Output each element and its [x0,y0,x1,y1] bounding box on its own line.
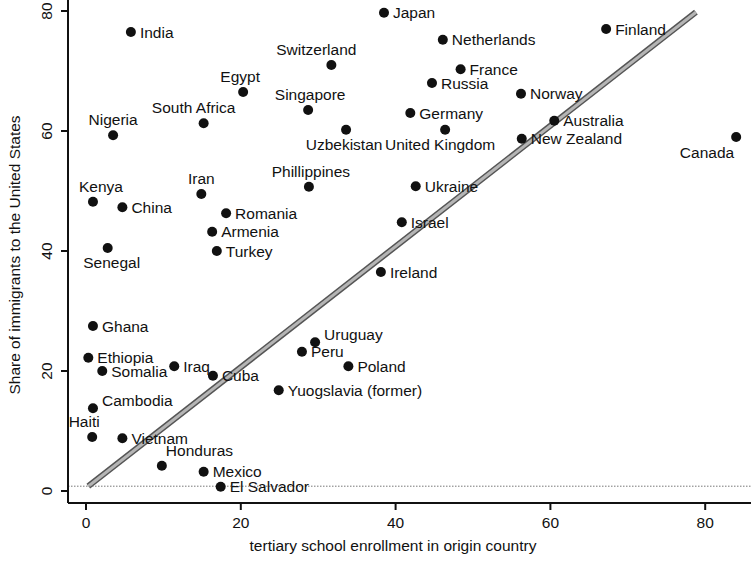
y-tick-label: 20 [38,362,55,380]
point-marker [517,134,527,144]
point-label: Australia [563,112,624,129]
point-label: Phillippines [272,163,351,180]
point-label: Uruguay [324,326,383,343]
scatter-chart: 020406080 020406080 tertiary school enro… [0,0,751,567]
point-marker [199,467,209,477]
data-point: Singapore [275,86,346,115]
data-point: Poland [343,358,405,375]
data-point: Armenia [207,223,279,240]
point-label: Iran [188,170,215,187]
data-point: Cuba [208,367,259,384]
data-point: Peru [297,343,344,360]
data-point: Egypt [220,68,260,97]
x-tick-label: 40 [387,514,405,531]
point-marker [221,208,231,218]
point-label: Kenya [79,178,123,195]
data-point: Senegal [83,243,140,271]
point-marker [83,353,93,363]
data-point: Finland [601,21,666,38]
reference-lines [68,12,751,486]
point-label: Romania [235,205,297,222]
point-marker [88,197,98,207]
y-tick-label: 0 [38,486,55,495]
point-label: Uzbekistan [306,136,383,153]
data-point: Iraq [169,358,210,375]
data-point: Ireland [376,264,437,281]
point-label: Ukraine [425,178,478,195]
axes: 020406080 020406080 tertiary school enro… [6,0,751,554]
data-point: El Salvador [216,478,309,495]
x-axis-title: tertiary school enrollment in origin cou… [250,537,537,554]
data-point: Uzbekistan [306,125,383,153]
y-tick-label: 40 [38,242,55,260]
point-marker [303,105,313,115]
point-marker [103,243,113,253]
point-label: Switzerland [276,41,356,58]
point-marker [297,347,307,357]
data-point: Haiti [69,413,100,442]
x-tick-label: 80 [697,514,715,531]
point-label: New Zealand [531,130,622,147]
point-marker [341,125,351,135]
point-marker [456,64,466,74]
data-point: Japan [379,4,435,21]
data-point: South Africa [152,99,236,128]
point-label: Ireland [390,264,437,281]
data-point: Turkey [212,243,273,260]
point-label: India [140,24,174,41]
point-marker [440,125,450,135]
point-label: Iraq [183,358,210,375]
data-point: Yuogslavia (former) [274,382,422,399]
point-marker [438,35,448,45]
point-label: Israel [411,214,449,231]
point-label: Norway [530,85,583,102]
point-marker [196,189,206,199]
point-label: Canada [680,144,735,161]
data-point: Ghana [88,318,149,335]
point-marker [169,361,179,371]
data-point: China [117,199,172,216]
diagonal-line [88,12,696,486]
data-point: Phillippines [272,163,351,192]
point-marker [126,27,136,37]
point-marker [516,89,526,99]
point-marker [117,202,127,212]
point-marker [731,132,741,142]
point-label: Armenia [221,223,279,240]
point-label: Peru [311,343,344,360]
x-tick-label: 60 [542,514,560,531]
data-point: Germany [405,105,483,122]
point-label: Egypt [220,68,260,85]
point-marker [304,182,314,192]
point-marker [212,246,222,256]
point-label: United Kingdom [385,136,495,153]
point-label: El Salvador [230,478,309,495]
point-label: Cuba [222,367,259,384]
point-marker [326,60,336,70]
point-label: Poland [357,358,405,375]
data-point: Cambodia [88,392,173,413]
point-label: Netherlands [452,31,536,48]
data-point: Israel [397,214,449,231]
point-marker [117,433,127,443]
point-marker [397,217,407,227]
point-label: South Africa [152,99,236,116]
point-marker [157,461,167,471]
data-point: Iran [188,170,215,199]
data-point: Norway [516,85,583,102]
point-marker [411,181,421,191]
data-point: New Zealand [517,130,622,147]
data-point: Kenya [79,178,123,207]
point-marker [97,366,107,376]
point-label: Senegal [83,254,140,271]
point-marker [601,24,611,34]
point-label: Haiti [69,413,100,430]
point-marker [199,118,209,128]
x-tick-label: 20 [232,514,250,531]
y-axis-title: Share of immigrants to the United States [6,115,23,394]
point-label: Finland [615,21,666,38]
point-label: Germany [419,105,483,122]
data-point: Romania [221,205,297,222]
point-marker [238,87,248,97]
point-label: Turkey [226,243,273,260]
